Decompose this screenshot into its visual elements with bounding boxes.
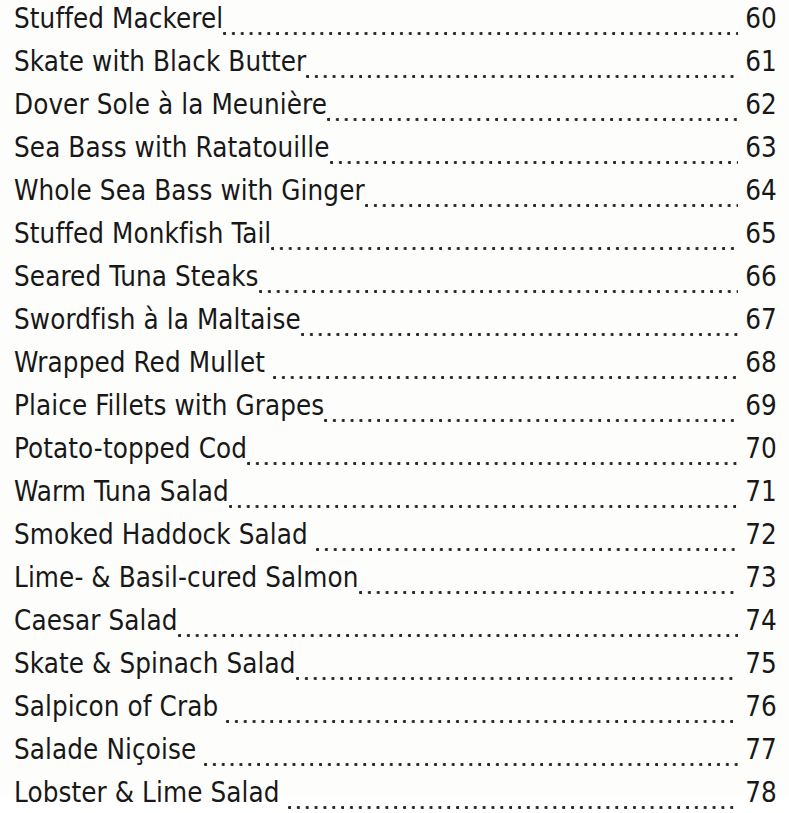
toc-entry-title: Stuffed Monkfish Tail — [14, 212, 271, 255]
toc-entry[interactable]: Skate & Spinach Salad75 — [14, 642, 777, 685]
dot-leader — [316, 529, 738, 556]
toc-entry-page-number: 64 — [739, 169, 777, 212]
toc-entry-title: Stuffed Mackerel — [14, 0, 223, 40]
toc-entry[interactable]: Sea Bass with Ratatouille63 — [14, 126, 777, 169]
toc-entry-title: Swordfish à la Maltaise — [14, 298, 301, 341]
toc-entry[interactable]: Swordfish à la Maltaise67 — [14, 298, 777, 341]
toc-entry[interactable]: Wrapped Red Mullet 68 — [14, 341, 777, 384]
toc-entry-page-number: 60 — [739, 0, 777, 40]
toc-entry-title: Wrapped Red Mullet — [14, 341, 273, 384]
toc-entry-page-number: 66 — [739, 255, 777, 298]
dot-leader — [247, 443, 738, 470]
dot-leader — [226, 701, 738, 728]
toc-entry[interactable]: Salade Niçoise 77 — [14, 728, 777, 771]
dot-leader — [273, 357, 738, 384]
toc-entry-title: Lime- & Basil-cured Salmon — [14, 556, 359, 599]
toc-entry[interactable]: Smoked Haddock Salad 72 — [14, 513, 777, 556]
dot-leader — [178, 615, 738, 642]
toc-entry-title: Dover Sole à la Meunière — [14, 83, 327, 126]
toc-entry[interactable]: Seared Tuna Steaks66 — [14, 255, 777, 298]
toc-entry-title: Plaice Fillets with Grapes — [14, 384, 324, 427]
dot-leader — [259, 271, 738, 298]
toc-entry[interactable]: Plaice Fillets with Grapes69 — [14, 384, 777, 427]
toc-entry-page-number: 76 — [739, 685, 777, 728]
toc-entry[interactable]: Whole Sea Bass with Ginger64 — [14, 169, 777, 212]
toc-entry-title: Warm Tuna Salad — [14, 470, 229, 513]
toc-entry-page-number: 61 — [739, 40, 777, 83]
toc-entry-page-number: 70 — [739, 427, 777, 470]
toc-entry[interactable]: Lobster & Lime Salad 78 — [14, 771, 777, 813]
toc-entry[interactable]: Salpicon of Crab 76 — [14, 685, 777, 728]
toc-entry-page-number: 65 — [739, 212, 777, 255]
dot-leader — [204, 744, 738, 771]
toc-entry-page-number: 74 — [739, 599, 777, 642]
toc-entry[interactable]: Skate with Black Butter61 — [14, 40, 777, 83]
dot-leader — [359, 572, 738, 599]
toc-entry-title: Lobster & Lime Salad — [14, 771, 288, 813]
toc-entry[interactable]: Dover Sole à la Meunière62 — [14, 83, 777, 126]
toc-entry-page-number: 62 — [739, 83, 777, 126]
dot-leader — [330, 142, 738, 169]
dot-leader — [229, 486, 738, 513]
toc-entry-title: Salade Niçoise — [14, 728, 204, 771]
dot-leader — [223, 13, 738, 40]
toc-entry-title: Sea Bass with Ratatouille — [14, 126, 330, 169]
toc-entry[interactable]: Warm Tuna Salad71 — [14, 470, 777, 513]
dot-leader — [306, 56, 738, 83]
toc-entry-page-number: 69 — [739, 384, 777, 427]
toc-entry-page-number: 68 — [739, 341, 777, 384]
toc-entry[interactable]: Lime- & Basil-cured Salmon73 — [14, 556, 777, 599]
toc-entry-title: Smoked Haddock Salad — [14, 513, 316, 556]
toc-entry-title: Whole Sea Bass with Ginger — [14, 169, 365, 212]
toc-entry-page-number: 71 — [739, 470, 777, 513]
toc-entry-page-number: 78 — [739, 771, 777, 813]
toc-entry-page-number: 77 — [739, 728, 777, 771]
toc-entry-title: Salpicon of Crab — [14, 685, 226, 728]
toc-entry-list: Stuffed Mackerel60Skate with Black Butte… — [14, 0, 777, 813]
toc-entry-title: Caesar Salad — [14, 599, 178, 642]
toc-entry-title: Skate with Black Butter — [14, 40, 306, 83]
toc-entry[interactable]: Stuffed Monkfish Tail65 — [14, 212, 777, 255]
dot-leader — [324, 400, 738, 427]
toc-entry-title: Seared Tuna Steaks — [14, 255, 259, 298]
dot-leader — [296, 658, 738, 685]
dot-leader — [271, 228, 738, 255]
dot-leader — [365, 185, 738, 212]
toc-entry-page-number: 67 — [739, 298, 777, 341]
toc-entry[interactable]: Stuffed Mackerel60 — [14, 0, 777, 40]
toc-entry[interactable]: Potato-topped Cod70 — [14, 427, 777, 470]
toc-entry-page-number: 72 — [739, 513, 777, 556]
dot-leader — [327, 99, 738, 126]
toc-entry-title: Skate & Spinach Salad — [14, 642, 296, 685]
toc-entry-page-number: 75 — [739, 642, 777, 685]
toc-entry[interactable]: Caesar Salad74 — [14, 599, 777, 642]
toc-entry-title: Potato-topped Cod — [14, 427, 247, 470]
dot-leader — [288, 787, 738, 813]
dot-leader — [301, 314, 738, 341]
toc-entry-page-number: 63 — [739, 126, 777, 169]
toc-entry-page-number: 73 — [739, 556, 777, 599]
